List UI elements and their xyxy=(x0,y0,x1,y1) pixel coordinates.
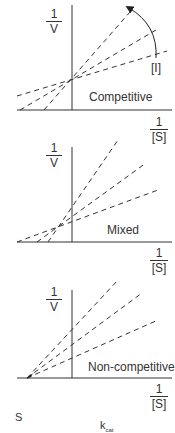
y-axis-label-non-competitive: 1 V xyxy=(46,286,62,313)
x-axis-label-competitive: 1 [S] xyxy=(150,116,168,143)
y-axis-label-mixed: 1 V xyxy=(46,142,62,169)
mixed-plot xyxy=(17,140,172,242)
y-axis-label-competitive: 1 V xyxy=(46,8,62,35)
footer-right-text: kcat xyxy=(100,420,114,433)
panel-title-mixed: Mixed xyxy=(107,223,139,237)
panel-title-non-competitive: Non-competitive xyxy=(88,360,175,374)
footer-left-text: S xyxy=(15,412,22,423)
x-axis-label-mixed: 1 [S] xyxy=(150,247,168,274)
panel-title-competitive: Competitive xyxy=(89,90,152,104)
inhibitor-label: [I] xyxy=(151,62,161,74)
x-axis-label-non-competitive: 1 [S] xyxy=(150,383,168,410)
increasing-inhibitor-arrow xyxy=(129,8,156,58)
